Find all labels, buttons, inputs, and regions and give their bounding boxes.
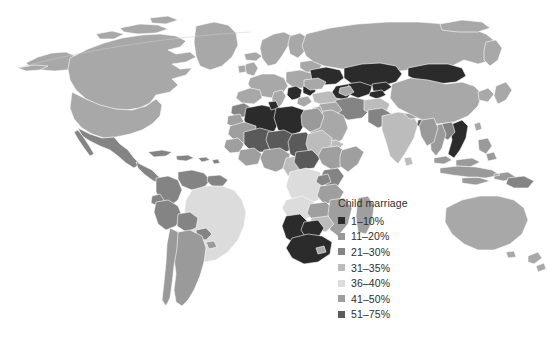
legend-label-51-75: 51–75%	[351, 308, 390, 320]
country-sri-lanka	[404, 157, 413, 166]
legend-label-36-40: 36–40%	[351, 277, 390, 289]
country-tasmania	[506, 251, 516, 258]
world-choropleth-map	[0, 0, 547, 347]
country-canada	[68, 34, 196, 110]
country-iceland	[244, 52, 262, 61]
region-south-america	[151, 170, 246, 306]
country-united-kingdom	[244, 62, 258, 76]
country-australia	[445, 196, 528, 250]
legend-title: Child marriage	[338, 197, 438, 209]
legend-item-11-20: 11–20%	[338, 229, 438, 245]
country-indonesia	[440, 166, 516, 185]
map-legend: Child marriage 1–10% 11–20% 21–30% 31–35…	[338, 197, 438, 322]
legend-item-21-30: 21–30%	[338, 244, 438, 260]
country-ireland	[238, 65, 246, 73]
country-tajikistan	[369, 90, 386, 99]
country-taiwan	[474, 122, 482, 131]
legend-item-41-50: 41–50%	[338, 291, 438, 307]
legend-swatch-41-50	[338, 295, 345, 302]
country-somalia	[340, 146, 364, 172]
legend-swatch-1-10	[338, 217, 345, 224]
country-spain-portugal	[236, 88, 262, 104]
region-north-america	[18, 16, 262, 184]
region-kamchatka	[484, 40, 502, 66]
legend-swatch-36-40	[338, 280, 345, 287]
country-new-zealand	[528, 252, 546, 272]
country-papua-new-guinea	[506, 176, 534, 188]
country-greenland	[194, 22, 238, 70]
legend-item-31-35: 31–35%	[338, 260, 438, 276]
legend-swatch-21-30	[338, 248, 345, 255]
world-map-figure: Child marriage 1–10% 11–20% 21–30% 31–35…	[0, 0, 547, 347]
legend-label-1-10: 1–10%	[351, 215, 384, 227]
legend-swatch-31-35	[338, 264, 345, 271]
legend-label-11-20: 11–20%	[351, 230, 389, 242]
region-scandinavia	[260, 32, 292, 66]
country-korea-japan	[478, 82, 512, 104]
country-philippines	[478, 138, 497, 161]
legend-item-51-75: 51–75%	[338, 307, 438, 323]
country-guianas	[207, 175, 228, 187]
legend-swatch-51-75	[338, 311, 345, 318]
country-india	[382, 112, 418, 164]
country-greece	[297, 96, 312, 107]
legend-label-31-35: 31–35%	[351, 262, 390, 274]
region-oceania	[445, 196, 546, 272]
legend-label-41-50: 41–50%	[351, 293, 390, 305]
legend-item-1-10: 1–10%	[338, 213, 438, 229]
legend-swatch-11-20	[338, 233, 345, 240]
legend-item-36-40: 36–40%	[338, 275, 438, 291]
legend-label-21-30: 21–30%	[351, 246, 390, 258]
country-malaysia	[434, 156, 480, 167]
country-argentina	[174, 230, 206, 306]
region-north-asia	[302, 20, 502, 74]
region-caribbean-islands	[148, 150, 220, 164]
region-siberia-coast	[440, 20, 490, 32]
